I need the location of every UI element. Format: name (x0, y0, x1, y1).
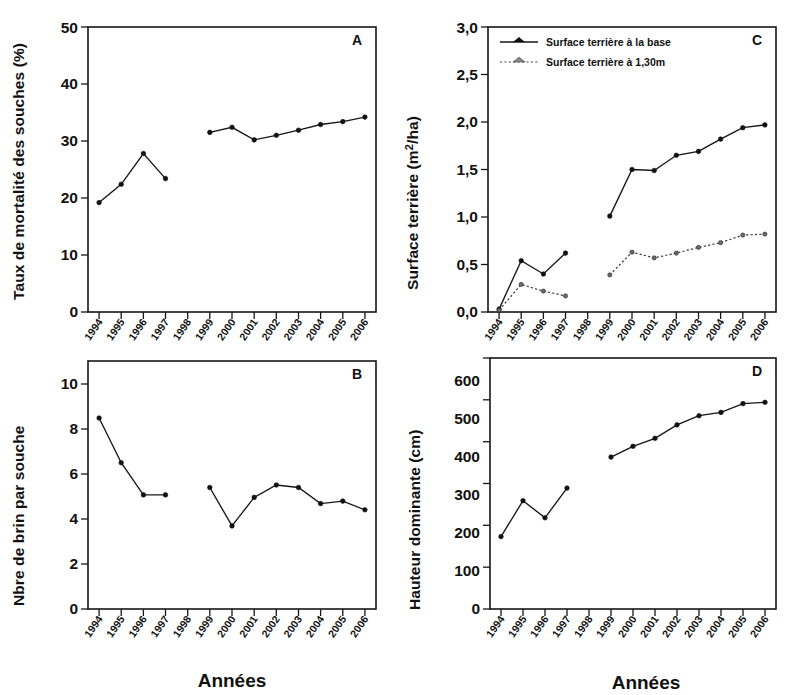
data-point (608, 273, 612, 277)
data-point (630, 250, 634, 254)
data-point (741, 233, 745, 237)
data-point (763, 400, 768, 405)
xtick-label-1998: 1998 (170, 613, 193, 639)
data-point (141, 151, 146, 156)
xtick-label-1999: 1999 (592, 316, 615, 342)
data-point (208, 485, 213, 490)
data-point (697, 413, 702, 418)
panel-b-ylabel-group: Nbre de brin par souche (10, 425, 27, 606)
data-point (341, 119, 346, 124)
panel-a-ytick-2: 20 (61, 189, 78, 206)
panel-d-ytick-4: 400 (454, 448, 480, 465)
data-point (119, 460, 124, 465)
panel-d-xaxis-title: Années (612, 672, 681, 693)
xtick-label-1996: 1996 (526, 316, 549, 342)
panel-a-xticklabels: 1994199519961997199819992000200120022003… (82, 316, 371, 342)
panel-c-ytick-4: 2,0 (456, 113, 478, 130)
panel-c-ylabel-group: Surface terrière (m2/ha) (403, 116, 421, 290)
xtick-label-1997: 1997 (148, 316, 171, 342)
panel-c-ylabel-prefix: Surface terrière (m (404, 150, 421, 290)
xtick-label-2000: 2000 (214, 613, 237, 639)
data-point (719, 410, 724, 415)
panel-d-ytick-1: 100 (454, 562, 480, 579)
panel-c-ytick-2: 1,0 (456, 208, 478, 225)
panel-c: Surface terrière (m2/ha) 0,0 0,5 1,0 1,5… (396, 0, 792, 348)
panel-d-ytick-3: 300 (454, 486, 480, 503)
xtick-label-2000: 2000 (214, 316, 237, 342)
series-line-0 (499, 253, 565, 309)
xtick-label-2002: 2002 (259, 613, 282, 639)
data-point (230, 125, 235, 130)
data-point (741, 401, 746, 406)
xtick-label-2003: 2003 (681, 316, 704, 342)
panel-a-ytick-0: 0 (69, 303, 78, 320)
panel-c-legend-label-0: Surface terrière à la base (546, 36, 671, 48)
data-point (519, 282, 523, 286)
panel-b-ytick-3: 6 (69, 465, 78, 482)
data-point (296, 485, 301, 490)
panel-a-ytick-3: 30 (61, 132, 78, 149)
xtick-label-2004: 2004 (303, 613, 326, 639)
data-point (630, 167, 635, 172)
panel-a-ytick-1: 10 (61, 246, 78, 263)
xtick-label-2003: 2003 (281, 613, 304, 639)
panel-d-ytick-0: 0 (471, 600, 480, 617)
panel-d-xticklabels: 1994199519961997199819992000200120022003… (483, 613, 770, 639)
data-point (675, 423, 680, 428)
data-point (497, 308, 501, 312)
panel-c-ytick-3: 1,5 (456, 161, 478, 178)
xtick-label-1995: 1995 (505, 613, 528, 639)
panel-c-letter: C (752, 32, 762, 48)
xtick-label-1996: 1996 (527, 613, 550, 639)
panel-d-yticks (483, 358, 490, 609)
xtick-label-2006: 2006 (347, 316, 370, 342)
xtick-label-1996: 1996 (126, 316, 149, 342)
panel-a-ytick-5: 50 (61, 19, 78, 36)
data-point (141, 493, 146, 498)
panel-a-ytick-4: 40 (61, 75, 78, 92)
series-line-0 (501, 488, 567, 536)
xtick-label-2000: 2000 (615, 613, 638, 639)
panel-b-xaxis-title: Années (198, 670, 267, 691)
data-point (696, 149, 701, 154)
xtick-label-1999: 1999 (593, 613, 616, 639)
panel-d-plot-frame (490, 358, 776, 609)
data-point (609, 455, 614, 460)
data-point (718, 137, 723, 142)
panel-a-ylabel-group: Taux de mortalité des souches (%) (10, 43, 27, 300)
data-point (252, 138, 257, 143)
xtick-label-1994: 1994 (483, 613, 506, 639)
panel-a-letter: A (352, 32, 362, 48)
panel-d-ytick-6: 600 (454, 372, 480, 389)
data-point (97, 200, 102, 205)
data-point (208, 130, 213, 135)
panel-d: Hauteur dominante (cm) 0 100 200 300 400… (396, 348, 792, 695)
panel-b-series (97, 416, 367, 529)
panel-c-legend-item-1: Surface terrière à 1,30m (500, 56, 665, 68)
series-line-0 (99, 418, 165, 495)
data-point (674, 251, 678, 255)
data-point (563, 294, 567, 298)
data-point (565, 486, 570, 491)
panel-a: Taux de mortalité des souches (%) 0 10 2… (0, 0, 396, 348)
legend-open-triangle-marker-icon (513, 57, 525, 62)
xtick-label-1994: 1994 (82, 613, 105, 639)
data-point (119, 182, 124, 187)
xtick-label-1997: 1997 (148, 613, 171, 639)
xtick-label-1995: 1995 (104, 316, 127, 342)
panel-b-ytick-4: 8 (69, 420, 78, 437)
data-point (341, 499, 346, 504)
xtick-label-2003: 2003 (281, 316, 304, 342)
xtick-label-2002: 2002 (659, 316, 682, 342)
data-point (763, 232, 767, 236)
xtick-label-1995: 1995 (504, 316, 527, 342)
data-point (652, 168, 657, 173)
xtick-label-2000: 2000 (614, 316, 637, 342)
data-point (163, 176, 168, 181)
data-point (521, 498, 526, 503)
series-line-0 (210, 485, 365, 526)
panel-b-ytick-0: 0 (69, 600, 78, 617)
data-point (608, 214, 613, 219)
data-point (252, 495, 257, 500)
xtick-label-2005: 2005 (725, 613, 748, 639)
